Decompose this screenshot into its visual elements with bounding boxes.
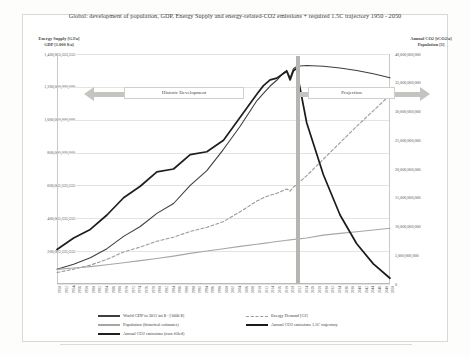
legend-item[interactable]: Annual CO2 emissions 1.5C trajectory	[246, 321, 338, 329]
left-axis-title: Energy Supply [GJ/a] GDP [1.000 $/a]	[24, 36, 94, 47]
x-axis-tick-label: 1990	[192, 286, 196, 293]
legend-divider	[60, 344, 412, 345]
x-axis-tick-label: 2050	[391, 286, 395, 293]
x-axis-tick-label: 1996	[211, 286, 215, 293]
x-axis-tick-label: 2024	[305, 286, 309, 293]
x-axis-tick-label: 2020	[291, 286, 295, 293]
y2-axis-tick-label: 40,000,000,000	[395, 52, 421, 57]
figure-page: Global: development of population, GDP, …	[0, 0, 470, 357]
x-axis-tick-label: 1966	[112, 286, 116, 293]
x-axis-tick-label: 1972	[132, 286, 136, 293]
x-axis-tick-label: 1964	[105, 286, 109, 293]
x-axis-tick-label: 1994	[205, 286, 209, 293]
x-axis-tick-label: 1978	[152, 286, 156, 293]
x-axis-tick-label: 1956	[78, 286, 82, 293]
chart-legend: World GDP in 2011 int $ - [1000 $]Popula…	[98, 312, 398, 344]
legend-swatch	[246, 316, 268, 317]
x-axis-tick-label: 2004	[238, 286, 242, 293]
x-axis-tick-label: 2006	[245, 286, 249, 293]
legend-label: World GDP in 2011 int $ - [1000 $]	[123, 313, 184, 318]
x-axis-tick-label: 2044	[371, 286, 375, 293]
x-axis-tick-label: 1952	[65, 286, 69, 293]
x-axis-tick-label: 2046	[378, 286, 382, 293]
x-axis-tick-label: 1980	[158, 286, 162, 293]
projection-arrow-head	[420, 87, 430, 101]
y2-axis-tick-label: 30,000,000,000	[395, 109, 421, 114]
x-axis-tick-label: 2038	[351, 286, 355, 293]
legend-swatch	[98, 324, 120, 325]
x-axis-tick-label: 1976	[145, 286, 149, 293]
y2-axis-tick-label: 0	[395, 282, 397, 287]
x-axis-tick-label: 2008	[251, 286, 255, 293]
series-line	[297, 71, 390, 278]
x-axis-tick-label: 2026	[311, 286, 315, 293]
x-axis-tick-label: 2028	[318, 286, 322, 293]
x-axis-tick-label: 1986	[178, 286, 182, 293]
legend-item[interactable]: Energy Demand [GJ]	[246, 312, 308, 320]
x-axis-tick-label: 1998	[218, 286, 222, 293]
y2-axis-tick-label: 5,000,000,000	[395, 253, 419, 258]
x-axis-tick-label: 2032	[331, 286, 335, 293]
x-axis-tick-label: 2034	[338, 286, 342, 293]
year-2020-marker	[296, 56, 300, 284]
x-axis-tick-label: 1982	[165, 286, 169, 293]
x-axis-tick-label: 1968	[118, 286, 122, 293]
x-axis-tick-label: 2014	[271, 286, 275, 293]
legend-item[interactable]: Population (historical estimates)	[98, 321, 179, 329]
legend-swatch	[98, 315, 120, 316]
y2-axis-tick-label: 20,000,000,000	[395, 167, 421, 172]
y2-axis-tick-label: 10,000,000,000	[395, 224, 421, 229]
x-axis-tick-label: 2016	[278, 286, 282, 293]
x-axis-labels: 1950195219541956195819601962196419661968…	[57, 286, 390, 308]
x-axis-tick-label: 1992	[198, 286, 202, 293]
x-axis-tick-label: 2022	[298, 286, 302, 293]
x-axis-tick-label: 2040	[358, 286, 362, 293]
x-axis-tick-label: 1984	[172, 286, 176, 293]
x-axis-tick-label: 2048	[385, 286, 389, 293]
series-line	[57, 95, 390, 272]
x-axis-tick-label: 2002	[231, 286, 235, 293]
x-axis-tick-label: 1960	[92, 286, 96, 293]
x-axis-tick-label: 1988	[185, 286, 189, 293]
x-axis-tick-label: 2000	[225, 286, 229, 293]
y2-axis-tick-label: 15,000,000,000	[395, 195, 421, 200]
right-axis-title-line2: Population [1]	[396, 42, 466, 48]
annotation-historic-development: Historic Development	[124, 87, 244, 99]
legend-item[interactable]: World GDP in 2011 int $ - [1000 $]	[98, 312, 184, 320]
x-axis-tick-label: 2030	[325, 286, 329, 293]
legend-label: Energy Demand [GJ]	[271, 313, 308, 318]
x-axis-tick-label: 2010	[258, 286, 262, 293]
annotation-projection: Projection	[308, 87, 395, 99]
legend-item[interactable]: Annual CO2 emissions (own filled)	[98, 330, 184, 338]
x-axis-tick-label: 1970	[125, 286, 129, 293]
x-axis-tick-label: 1954	[72, 286, 76, 293]
historic-development-arrow-head	[84, 87, 94, 101]
y2-axis-tick-label: 25,000,000,000	[395, 138, 421, 143]
right-axis-title: Annual CO2 [tCO2/a] Population [1]	[396, 36, 466, 47]
legend-swatch	[98, 333, 120, 335]
legend-label: Annual CO2 emissions (own filled)	[123, 331, 184, 336]
x-axis-tick-label: 2012	[265, 286, 269, 293]
legend-label: Population (historical estimates)	[123, 322, 179, 327]
x-axis-tick-label: 1962	[98, 286, 102, 293]
legend-label: Annual CO2 emissions 1.5C trajectory	[271, 322, 338, 327]
x-axis-tick-label: 1974	[138, 286, 142, 293]
y2-axis-tick-label: 35,000,000,000	[395, 80, 421, 85]
gridline	[57, 284, 390, 285]
legend-swatch	[246, 324, 268, 326]
x-axis-tick-label: 2036	[345, 286, 349, 293]
x-axis-tick-label: 1958	[85, 286, 89, 293]
x-axis-tick-label: 2042	[365, 286, 369, 293]
x-axis-tick-label: 1950	[58, 286, 62, 293]
left-axis-title-line2: GDP [1.000 $/a]	[24, 42, 94, 48]
chart-title: Global: development of population, GDP, …	[60, 12, 410, 20]
x-axis-tick-label: 2018	[285, 286, 289, 293]
